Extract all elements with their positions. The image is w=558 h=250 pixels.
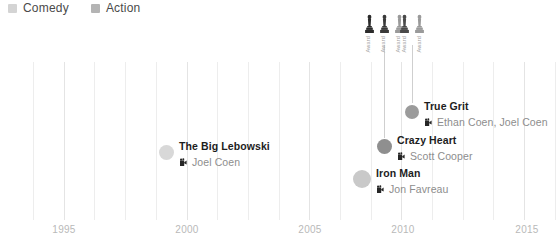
axis-tick-label: 2015 (515, 224, 538, 235)
film-dot[interactable] (159, 145, 174, 160)
axis-tick-label: 2005 (298, 224, 321, 235)
gridline (64, 62, 65, 220)
square-swatch-icon (91, 4, 100, 13)
axis-tick-label: 2000 (175, 224, 198, 235)
film-camera-icon (397, 152, 406, 161)
film-title: True Grit (424, 100, 469, 112)
gridline (156, 62, 157, 220)
award-group: AwardAward (398, 14, 426, 53)
legend-item-action[interactable]: Action (91, 2, 141, 14)
axis-tick-label: 2010 (391, 224, 414, 235)
gridline (33, 62, 34, 220)
gridline (524, 62, 525, 220)
award-label: Award (402, 36, 408, 53)
film-marker[interactable]: True GritEthan Coen, Joel Coen (405, 96, 548, 128)
gridline (309, 62, 310, 220)
legend-label: Comedy (23, 2, 69, 14)
award-label: Award (381, 36, 387, 53)
gridline (493, 62, 494, 220)
film-title: The Big Lebowski (179, 140, 270, 152)
film-camera-icon (424, 118, 433, 127)
film-dot[interactable] (353, 170, 371, 188)
film-marker[interactable]: The Big LebowskiJoel Coen (159, 136, 270, 168)
gridline (555, 62, 556, 220)
award-marker[interactable]: Award (398, 14, 411, 53)
axis-tick-label: 1995 (52, 224, 75, 235)
film-timeline-chart: Comedy Action AwardAwardAwardAwardAwardT… (0, 0, 558, 250)
film-dot[interactable] (405, 105, 419, 119)
film-director: Scott Cooper (410, 150, 472, 162)
film-director: Jon Favreau (389, 183, 448, 195)
award-marker[interactable]: Award (378, 14, 391, 53)
square-swatch-icon (8, 4, 17, 13)
award-label: Award (417, 36, 423, 53)
oscar-statuette-icon (364, 14, 375, 35)
chart-legend: Comedy Action (8, 2, 140, 14)
film-title: Iron Man (376, 167, 421, 179)
award-stem-line (384, 45, 385, 138)
oscar-statuette-icon (379, 14, 390, 35)
film-camera-icon (376, 185, 385, 194)
film-title: Crazy Heart (397, 134, 456, 146)
film-camera-icon (179, 158, 188, 167)
award-marker[interactable]: Award (363, 14, 376, 53)
film-director: Ethan Coen, Joel Coen (437, 116, 548, 128)
gridline (94, 62, 95, 220)
legend-item-comedy[interactable]: Comedy (8, 2, 69, 14)
film-marker[interactable]: Iron ManJon Favreau (353, 163, 448, 195)
x-axis: 19952000200520102015 (0, 218, 558, 250)
award-marker[interactable]: Award (413, 14, 426, 53)
gridline (340, 62, 341, 220)
gridline (125, 62, 126, 220)
gridline (371, 62, 372, 220)
legend-label: Action (106, 2, 141, 14)
oscar-statuette-icon (414, 14, 425, 35)
oscar-statuette-icon (399, 14, 410, 35)
film-dot[interactable] (377, 139, 392, 154)
film-marker[interactable]: Crazy HeartScott Cooper (377, 130, 472, 162)
award-label: Award (366, 36, 372, 53)
gridline (279, 62, 280, 220)
film-director: Joel Coen (192, 156, 240, 168)
award-stem-line (412, 45, 413, 103)
